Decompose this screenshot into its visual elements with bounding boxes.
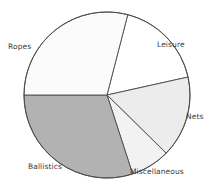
pie-label-nets: Nets	[186, 112, 203, 121]
pie-label-ropes: Ropes	[8, 42, 31, 51]
pie-slice-group	[24, 12, 190, 178]
pie-chart-figure: Ropes Leisure Nets Miscellaneous Ballist…	[0, 0, 217, 186]
pie-label-miscellaneous: Miscellaneous	[130, 167, 184, 176]
pie-label-leisure: Leisure	[157, 40, 185, 49]
pie-label-ballistics: Ballistics	[28, 162, 62, 171]
pie-chart-svg	[0, 0, 217, 186]
